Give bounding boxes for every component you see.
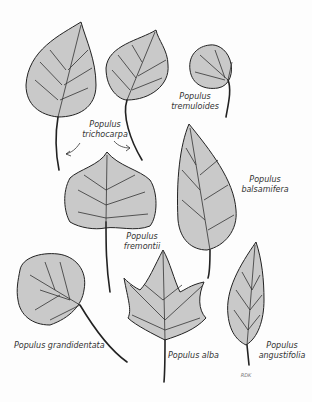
label-genus: Populus [112, 232, 172, 242]
label-balsamifera: Populus balsamifera [230, 175, 300, 195]
label-trichocarpa: Populus trichocarpa [70, 120, 140, 140]
leaf-balsamifera [177, 124, 236, 278]
label-angustifolia: Populus angustifolia [250, 341, 312, 361]
arrow-right [114, 141, 130, 151]
label-fremontii: Populus fremontii [112, 232, 172, 252]
leaf-alba [124, 250, 206, 382]
label-species: fremontii [112, 242, 172, 252]
label-species: trichocarpa [70, 130, 140, 140]
arrow-left [66, 143, 80, 156]
populus-leaves-illustration: Populus trichocarpa Populus tremuloides … [0, 0, 312, 402]
label-genus: Populus [250, 341, 312, 351]
label-species: angustifolia [250, 351, 312, 361]
label-genus: Populus [70, 120, 140, 130]
label-tremuloides: Populus tremuloides [160, 92, 230, 112]
label-full: Populus alba [168, 351, 238, 361]
label-alba: Populus alba [168, 351, 238, 361]
label-full: Populus grandidentata [14, 341, 114, 351]
label-species: balsamifera [230, 185, 300, 195]
leaf-trichocarpa-2 [106, 30, 168, 160]
label-genus: Populus [160, 92, 230, 102]
label-genus: Populus [230, 175, 300, 185]
label-grandidentata: Populus grandidentata [14, 341, 114, 351]
label-species: tremuloides [160, 102, 230, 112]
leaf-trichocarpa-1 [26, 22, 96, 170]
artist-signature: RDK [236, 370, 256, 380]
